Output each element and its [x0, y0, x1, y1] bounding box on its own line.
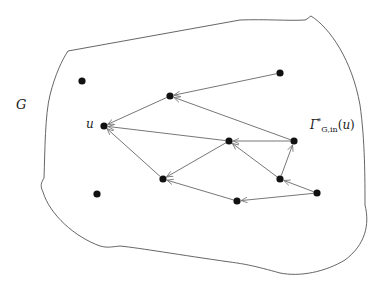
directed-edge: [241, 193, 313, 200]
graph-node-n_top: [276, 69, 283, 76]
directed-edge: [174, 74, 276, 95]
graph-node-u: [100, 122, 107, 129]
graph-node-n_a: [166, 92, 173, 99]
graph-diagram: [0, 0, 383, 289]
graph-node-n_bot: [233, 197, 240, 204]
graph-node-n_far: [313, 189, 320, 196]
graph-node-iso_1: [78, 77, 85, 84]
directed-edge: [232, 143, 277, 176]
directed-edge: [281, 145, 292, 176]
directed-edge: [284, 180, 314, 191]
graph-node-n_mid: [225, 137, 232, 144]
directed-edge: [174, 97, 291, 139]
directed-edge: [108, 126, 225, 140]
graph-node-n_right: [290, 137, 297, 144]
graph-boundary: [41, 16, 367, 274]
in-reach-set-label: Γ*G,in(u): [310, 117, 355, 134]
graph-node-iso_2: [93, 190, 100, 197]
directed-edge: [167, 180, 234, 200]
graph-node-n_left_low: [159, 175, 166, 182]
graph-label: G: [16, 97, 26, 112]
directed-edge: [108, 97, 167, 124]
directed-edge: [167, 143, 226, 177]
node-u-label: u: [86, 117, 94, 131]
directed-edge: [107, 129, 160, 177]
gamma-argument: u: [342, 118, 350, 132]
graph-node-n_rl: [276, 175, 283, 182]
gamma-subscript: G,in: [321, 125, 337, 134]
close-paren: ): [350, 118, 355, 132]
edge-group: [107, 74, 314, 201]
